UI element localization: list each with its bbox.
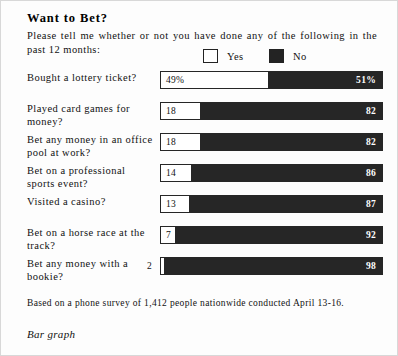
bar-value-yes: 13 (166, 199, 176, 209)
legend-swatch-yes-icon (203, 49, 218, 63)
legend-swatch-no-icon (269, 49, 284, 63)
legend-label-yes: Yes (227, 51, 243, 62)
bar-row: Bet any money in an office pool at work?… (1, 133, 398, 164)
legend-item-no: No (269, 46, 307, 62)
bar-value-yes: 49% (166, 75, 184, 85)
bar-value-no: 87 (366, 199, 376, 209)
bar-value-no: 51% (356, 75, 376, 85)
bar-value-no: 98 (366, 261, 376, 271)
bar-rows: Bought a lottery ticket?49%51%Played car… (1, 71, 398, 288)
figure-caption: Bar graph (27, 328, 75, 340)
bar-value-yes: 18 (166, 106, 176, 116)
bar-row-label: Played card games for money? (27, 102, 155, 128)
bar-row-label: Bet any money in an office pool at work? (27, 133, 155, 159)
bar-row-label: Visited a casino? (27, 195, 155, 208)
bar-value-yes: 18 (166, 137, 176, 147)
bar-row: Bet on a professional sports event?1486 (1, 164, 398, 195)
source-note: Based on a phone survey of 1,412 people … (27, 298, 377, 308)
bar-row-label: Bought a lottery ticket? (27, 71, 155, 84)
bar-value-yes: 2 (147, 261, 152, 271)
bar-row: Played card games for money?1882 (1, 102, 398, 133)
bar-value-no: 86 (366, 168, 376, 178)
stacked-bar: 298 (160, 257, 383, 275)
stacked-bar: 1882 (160, 102, 383, 120)
stacked-bar: 1486 (160, 164, 383, 182)
stacked-bar: 1387 (160, 195, 383, 213)
bar-value-no: 82 (366, 106, 376, 116)
bar-value-yes: 7 (166, 230, 171, 240)
bar-row: Bought a lottery ticket?49%51% (1, 71, 398, 102)
legend-label-no: No (293, 51, 307, 62)
bar-graph-figure: Want to Bet? Please tell me whether or n… (0, 0, 398, 356)
bar-row: Bet on a horse race at the track?792 (1, 226, 398, 257)
stacked-bar: 1882 (160, 133, 383, 151)
legend-item-yes: Yes (203, 46, 243, 62)
bar-row-label: Bet on a professional sports event? (27, 164, 155, 190)
bar-row: Visited a casino?1387 (1, 195, 398, 226)
stacked-bar: 49%51% (160, 71, 383, 89)
bar-row-label: Bet on a horse race at the track? (27, 226, 155, 252)
bar-row: Bet any money with a bookie?298 (1, 257, 398, 288)
bar-row-label: Bet any money with a bookie? (27, 257, 155, 283)
stacked-bar: 792 (160, 226, 383, 244)
survey-question: Please tell me whether or not you have d… (27, 29, 377, 56)
bar-segment-yes (161, 258, 165, 274)
bar-value-no: 92 (366, 230, 376, 240)
bar-value-no: 82 (366, 137, 376, 147)
bar-value-yes: 14 (166, 168, 176, 178)
page-title: Want to Bet? (27, 11, 108, 26)
